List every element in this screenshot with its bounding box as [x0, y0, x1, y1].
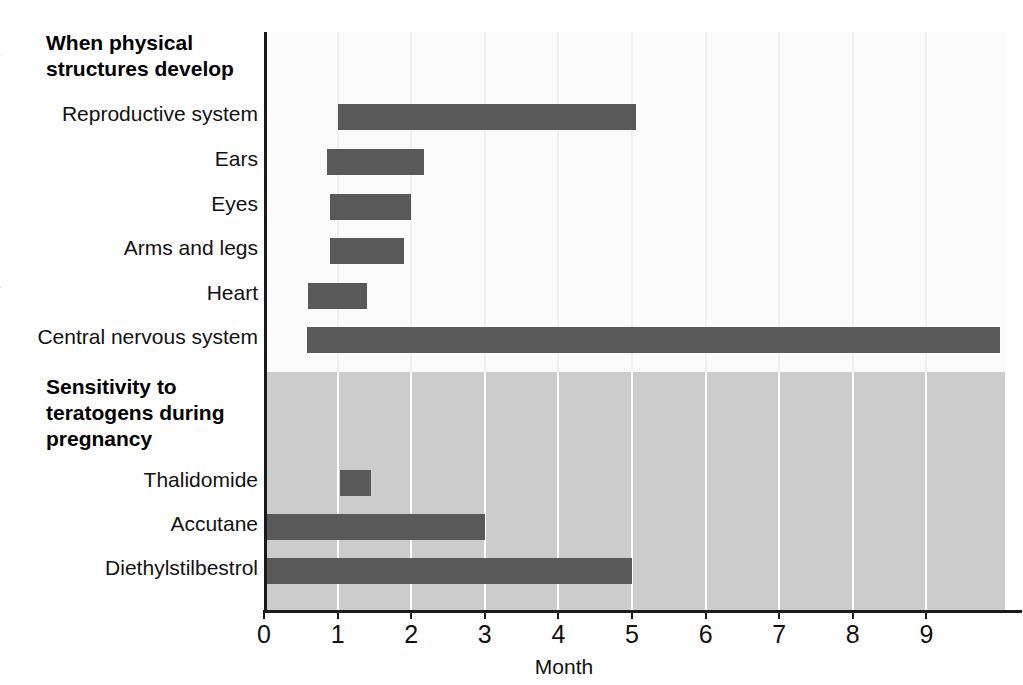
gridline-month-6 — [705, 372, 707, 610]
gridline-month-9 — [925, 372, 927, 610]
section-title-physical-structures: When physical structures develop — [46, 30, 234, 82]
x-tick-label-3: 3 — [465, 620, 505, 649]
chart-figure: ln.e-sesdes 0123456789 Month When physic… — [0, 0, 1023, 685]
x-tick-label-2: 2 — [391, 620, 431, 649]
x-tick-label-9: 9 — [906, 620, 946, 649]
gridline-month-8 — [852, 32, 854, 372]
category-label-heart: Heart — [18, 281, 258, 305]
category-label-reproductive-system: Reproductive system — [18, 102, 258, 126]
category-label-eyes: Eyes — [18, 192, 258, 216]
x-axis-label-text: Month — [535, 655, 593, 678]
gridline-month-3 — [484, 32, 486, 372]
gridline-month-6 — [705, 32, 707, 372]
category-label-arms-and-legs: Arms and legs — [18, 236, 258, 260]
x-axis-line — [264, 610, 1022, 613]
category-label-accutane: Accutane — [18, 512, 258, 536]
edge-fragment-8: d — [0, 269, 1, 298]
x-tick-label-6: 6 — [686, 620, 726, 649]
gridline-month-4 — [557, 32, 559, 372]
x-tick-label-5: 5 — [612, 620, 652, 649]
gridline-month-8 — [852, 372, 854, 610]
gridline-month-7 — [778, 372, 780, 610]
gridline-month-9 — [925, 32, 927, 372]
x-tick-1 — [337, 610, 339, 619]
bar-eyes — [330, 194, 411, 220]
category-label-column: When physical structures develop Sensiti… — [10, 0, 258, 685]
category-label-diethylstilbestrol: Diethylstilbestrol — [18, 556, 258, 580]
x-tick-4 — [557, 610, 559, 619]
x-tick-2 — [410, 610, 412, 619]
x-tick-5 — [631, 610, 633, 619]
bar-reproductive-system — [338, 104, 636, 130]
x-tick-label-7: 7 — [759, 620, 799, 649]
x-tick-9 — [925, 610, 927, 619]
bar-central-nervous-system — [307, 327, 1000, 353]
edge-fragment-1: n — [0, 37, 1, 66]
category-label-central-nervous-system: Central nervous system — [18, 325, 258, 349]
bar-ears — [327, 149, 425, 175]
bar-heart — [308, 283, 367, 309]
x-tick-7 — [778, 610, 780, 619]
bar-thalidomide — [340, 470, 371, 496]
x-tick-0 — [263, 610, 265, 619]
gridline-month-5 — [631, 32, 633, 372]
x-tick-8 — [852, 610, 854, 619]
x-tick-label-8: 8 — [833, 620, 873, 649]
category-label-thalidomide: Thalidomide — [18, 468, 258, 492]
x-tick-6 — [705, 610, 707, 619]
section-title-teratogen-sensitivity: Sensitivity to teratogens during pregnan… — [46, 374, 225, 452]
bar-arms-and-legs — [330, 238, 404, 264]
x-tick-3 — [484, 610, 486, 619]
x-tick-label-1: 1 — [318, 620, 358, 649]
y-axis-line — [264, 32, 267, 610]
bar-diethylstilbestrol — [264, 558, 632, 584]
plot-area — [264, 32, 1005, 610]
x-tick-label-4: 4 — [538, 620, 578, 649]
category-label-ears: Ears — [18, 147, 258, 171]
gridline-month-7 — [778, 32, 780, 372]
bar-accutane — [264, 514, 485, 540]
